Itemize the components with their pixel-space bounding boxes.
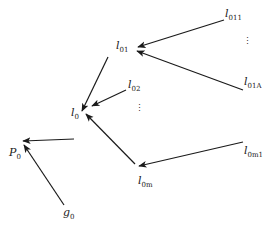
edge-l011-to-l01 (138, 20, 224, 47)
node-g0: g0 (63, 207, 75, 221)
edge-g0-to-P0 (24, 145, 64, 205)
edge-l01-to-l0 (82, 57, 108, 111)
node-P0: P0 (9, 147, 21, 161)
node-subscript: 0 (70, 213, 74, 221)
node-l011: l011 (225, 8, 242, 22)
node-subscript: 0 (75, 113, 79, 121)
edge-l0-to-P0 (23, 139, 74, 141)
ellipsis-l02-l0m: ⋮ (135, 106, 139, 111)
node-subscript: 0m1 (248, 151, 264, 159)
node-label: g (63, 206, 70, 219)
edge-l01A-to-l01 (137, 51, 243, 90)
ellipsis-l011-l01A: ⋮ (243, 39, 247, 44)
node-l0m1: l0m1 (244, 145, 263, 159)
edge-l0m1-to-l0m (139, 142, 243, 166)
node-subscript: 01 (120, 46, 129, 54)
edge-l0m-to-l0 (86, 114, 135, 164)
edge-l02-to-l0 (92, 90, 126, 106)
node-l02: l02 (128, 79, 140, 93)
node-l0: l0 (71, 107, 79, 121)
tree-edges (0, 0, 270, 229)
node-l0m: l0m (138, 175, 153, 189)
node-l01: l01 (116, 40, 128, 54)
node-subscript: 0m (142, 181, 153, 189)
node-subscript: 02 (132, 85, 141, 93)
node-subscript: 01A (248, 82, 262, 90)
node-subscript: 0 (16, 153, 20, 161)
node-subscript: 011 (229, 14, 242, 22)
node-l01A: l01A (244, 76, 262, 90)
